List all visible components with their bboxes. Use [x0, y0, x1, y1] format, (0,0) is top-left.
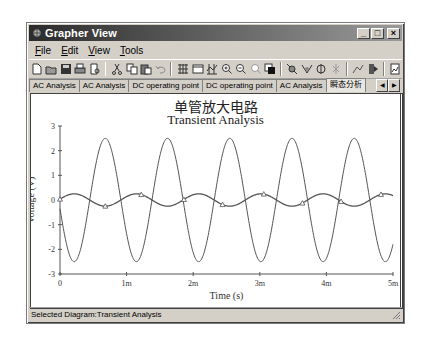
app-icon	[32, 28, 42, 38]
undo-icon	[155, 63, 167, 75]
tab-ac-analysis-3[interactable]: AC Analysis	[276, 79, 327, 92]
maximize-button[interactable]: □	[371, 28, 384, 39]
save-button[interactable]	[59, 62, 73, 76]
toolbar-separator	[170, 62, 172, 76]
overlay-icon	[315, 63, 327, 75]
tab-dc-operating-point-1[interactable]: DC operating point	[128, 79, 203, 92]
tab-ac-analysis-2[interactable]: AC Analysis	[79, 79, 130, 92]
overlay-button[interactable]	[315, 62, 329, 76]
status-text: Selected Diagram:Transient Analysis	[31, 310, 161, 319]
legend-button[interactable]	[191, 62, 205, 76]
copy-button[interactable]	[125, 62, 139, 76]
arrow-left-icon: ◀	[380, 82, 385, 88]
tab-scroll-left-button[interactable]: ◀	[376, 79, 388, 92]
y-tick-label: -2	[48, 245, 55, 254]
menu-bar: File Edit View Tools	[29, 43, 402, 58]
menu-tools[interactable]: Tools	[120, 45, 143, 56]
select-marks-icon	[330, 63, 342, 75]
open-button[interactable]	[45, 62, 59, 76]
output-trace	[60, 138, 393, 261]
resize-grip-icon[interactable]	[391, 310, 401, 320]
print-button[interactable]	[74, 62, 88, 76]
menu-edit[interactable]: Edit	[61, 45, 78, 56]
tab-strip: AC Analysis AC Analysis DC operating poi…	[29, 79, 402, 92]
undo-button[interactable]	[154, 62, 168, 76]
x-tick-label: 5m	[388, 279, 399, 288]
zoom-full-icon	[250, 63, 262, 75]
export-mathcad-button[interactable]	[389, 62, 403, 76]
cut-icon	[111, 63, 123, 75]
print-preview-icon	[89, 63, 101, 75]
minimize-button[interactable]: _	[357, 28, 370, 39]
maximize-icon: □	[375, 28, 380, 38]
zoom-in-button[interactable]	[220, 62, 234, 76]
add-trace-button[interactable]	[300, 62, 314, 76]
open-icon	[45, 63, 57, 75]
close-icon: ×	[391, 28, 396, 38]
tab-ac-analysis-1[interactable]: AC Analysis	[29, 79, 80, 92]
minimize-icon: _	[361, 28, 366, 38]
add-trace-icon	[301, 63, 313, 75]
export-excel-icon	[367, 63, 379, 75]
zoom-full-button[interactable]	[249, 62, 263, 76]
cut-button[interactable]	[110, 62, 124, 76]
grid-icon	[177, 63, 189, 75]
toggle-cursors-icon	[206, 63, 218, 75]
save-icon	[60, 63, 72, 75]
print-preview-button[interactable]	[88, 62, 102, 76]
status-bar: Selected Diagram:Transient Analysis	[29, 307, 402, 321]
toolbar-separator	[383, 62, 385, 76]
reverse-colors-icon	[264, 63, 276, 75]
x-tick-label: 4m	[321, 279, 332, 288]
menu-file[interactable]: File	[35, 45, 51, 56]
close-button[interactable]: ×	[387, 28, 400, 39]
paste-icon	[140, 63, 152, 75]
tab-transient-analysis[interactable]: 瞬态分析	[326, 78, 366, 92]
menu-view[interactable]: View	[88, 45, 110, 56]
new-icon	[31, 63, 43, 75]
legend-icon	[192, 63, 204, 75]
tab-scroll-controls: ◀ ▶	[376, 79, 400, 92]
reverse-colors-button[interactable]	[263, 62, 277, 76]
chart-canvas[interactable]: 单管放大电路 Transient Analysis 3210-1-2-301m2…	[30, 93, 403, 309]
toolbar	[29, 59, 402, 79]
add-traces-button[interactable]	[286, 62, 300, 76]
toggle-cursors-button[interactable]	[205, 62, 219, 76]
show-markers-button[interactable]	[352, 62, 366, 76]
arrow-right-icon: ▶	[392, 82, 397, 88]
x-tick-label: 1m	[121, 279, 132, 288]
export-mathcad-icon	[389, 63, 401, 75]
paste-button[interactable]	[139, 62, 153, 76]
show-markers-icon	[352, 63, 364, 75]
grapher-window: Grapher View _ □ × File Edit View Tools	[26, 22, 405, 324]
y-tick-label: 3	[51, 122, 55, 131]
triangle-marker-icon	[58, 197, 63, 202]
toolbar-separator	[280, 62, 282, 76]
export-excel-button[interactable]	[366, 62, 380, 76]
grid-button[interactable]	[176, 62, 190, 76]
transient-plot[interactable]: 3210-1-2-301m2m3m4m5mTime (s)Voltage (V)	[31, 94, 400, 308]
y-tick-label: 0	[51, 196, 55, 205]
tab-scroll-right-button[interactable]: ▶	[388, 79, 400, 92]
tab-dc-operating-point-2[interactable]: DC operating point	[202, 79, 277, 92]
window-title: Grapher View	[45, 27, 357, 39]
zoom-out-icon	[235, 63, 247, 75]
print-icon	[74, 63, 86, 75]
select-marks-button[interactable]	[329, 62, 343, 76]
title-bar[interactable]: Grapher View _ □ ×	[29, 25, 402, 41]
y-tick-label: -3	[48, 270, 55, 279]
x-tick-label: 2m	[188, 279, 199, 288]
x-tick-label: 0	[58, 279, 62, 288]
toolbar-separator	[105, 62, 107, 76]
toolbar-separator	[346, 62, 348, 76]
add-traces-icon	[286, 63, 298, 75]
new-button[interactable]	[30, 62, 44, 76]
y-tick-label: -1	[48, 221, 55, 230]
zoom-out-button[interactable]	[234, 62, 248, 76]
y-tick-label: 1	[51, 171, 55, 180]
y-axis-label: Voltage (V)	[31, 177, 37, 224]
zoom-in-icon	[221, 63, 233, 75]
x-axis-label: Time (s)	[210, 290, 244, 302]
copy-icon	[126, 63, 138, 75]
y-tick-label: 2	[51, 147, 55, 156]
